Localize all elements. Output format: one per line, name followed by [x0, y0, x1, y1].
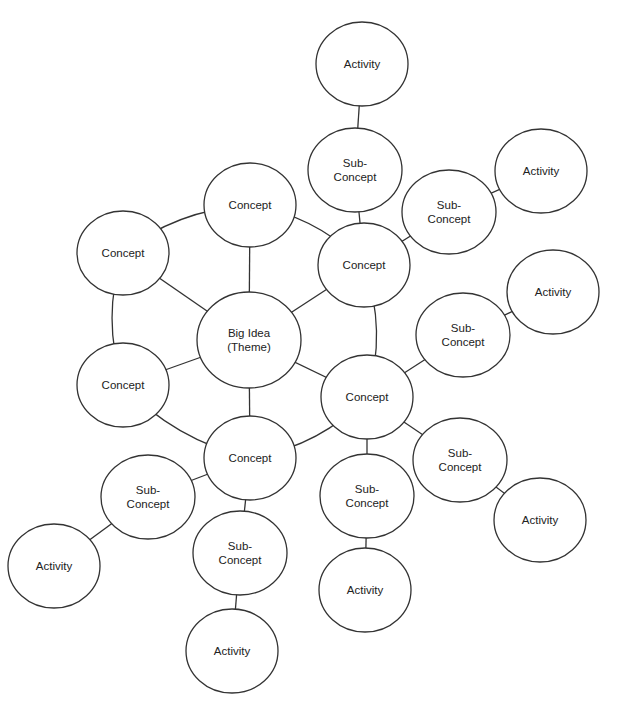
activity-label: Activity [347, 584, 384, 596]
activity-label: Activity [535, 286, 572, 298]
concept-node: Concept [77, 211, 169, 295]
big-idea-node: Big Idea(Theme) [197, 292, 301, 388]
sub-concept-label: Sub- [136, 484, 160, 496]
big-idea-ellipse [197, 292, 301, 388]
big-idea-label: (Theme) [227, 341, 271, 353]
sub-concept-node: Sub-Concept [320, 454, 414, 538]
concept-label: Concept [102, 379, 146, 391]
sub-concept-node: Sub-Concept [413, 418, 507, 502]
sub-concept-label: Concept [127, 498, 171, 510]
sub-concept-label: Concept [334, 171, 378, 183]
concept-node: Concept [318, 223, 410, 307]
activity-label: Activity [523, 165, 560, 177]
concept-label: Concept [229, 452, 273, 464]
concept-node: Concept [321, 355, 413, 439]
sub-concept-node: Sub-Concept [308, 128, 402, 212]
sub-concept-label: Sub- [355, 483, 379, 495]
concept-label: Concept [343, 259, 387, 271]
concept-node: Concept [77, 343, 169, 427]
concept-map-diagram: Big Idea(Theme)ConceptConceptConceptConc… [0, 0, 621, 707]
concept-node: Concept [204, 163, 296, 247]
sub-concept-label: Concept [428, 213, 472, 225]
activity-node: Activity [494, 478, 586, 562]
sub-concept-ellipse [101, 455, 195, 539]
activity-node: Activity [186, 609, 278, 693]
activity-node: Activity [319, 548, 411, 632]
sub-concept-node: Sub-Concept [416, 293, 510, 377]
sub-concept-ellipse [413, 418, 507, 502]
activity-node: Activity [316, 22, 408, 106]
concept-label: Concept [229, 199, 273, 211]
sub-concept-node: Sub-Concept [402, 170, 496, 254]
sub-concept-label: Concept [346, 497, 390, 509]
concept-label: Concept [102, 247, 146, 259]
sub-concept-ellipse [193, 511, 287, 595]
sub-concept-label: Sub- [228, 540, 252, 552]
activity-label: Activity [522, 514, 559, 526]
activity-node: Activity [507, 250, 599, 334]
sub-concept-ellipse [320, 454, 414, 538]
concept-label: Concept [346, 391, 390, 403]
activity-node: Activity [8, 524, 100, 608]
sub-concept-node: Sub-Concept [193, 511, 287, 595]
sub-concept-ellipse [308, 128, 402, 212]
sub-concept-label: Sub- [437, 199, 461, 211]
activity-label: Activity [36, 560, 73, 572]
activity-label: Activity [344, 58, 381, 70]
sub-concept-label: Concept [442, 336, 486, 348]
sub-concept-label: Sub- [451, 322, 475, 334]
diagram-canvas: Big Idea(Theme)ConceptConceptConceptConc… [0, 0, 621, 707]
sub-concept-node: Sub-Concept [101, 455, 195, 539]
sub-concept-ellipse [416, 293, 510, 377]
sub-concept-label: Concept [439, 461, 483, 473]
activity-label: Activity [214, 645, 251, 657]
sub-concept-label: Sub- [448, 447, 472, 459]
big-idea-label: Big Idea [228, 327, 271, 339]
nodes-layer: Big Idea(Theme)ConceptConceptConceptConc… [8, 22, 599, 693]
concept-node: Concept [204, 416, 296, 500]
sub-concept-label: Concept [219, 554, 263, 566]
sub-concept-label: Sub- [343, 157, 367, 169]
activity-node: Activity [495, 129, 587, 213]
sub-concept-ellipse [402, 170, 496, 254]
